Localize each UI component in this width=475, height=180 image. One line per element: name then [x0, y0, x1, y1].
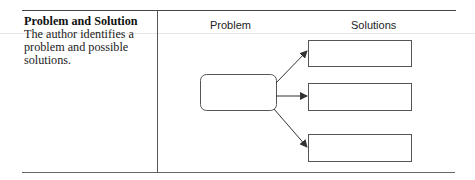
problem-solution-diagram	[0, 0, 475, 180]
solution-box-1	[309, 41, 412, 67]
arrow-to-solution-1	[276, 51, 307, 83]
arrow-to-solution-3	[274, 109, 307, 147]
problem-box	[201, 75, 277, 111]
solution-box-2	[309, 84, 412, 111]
solution-box-3	[309, 135, 412, 162]
